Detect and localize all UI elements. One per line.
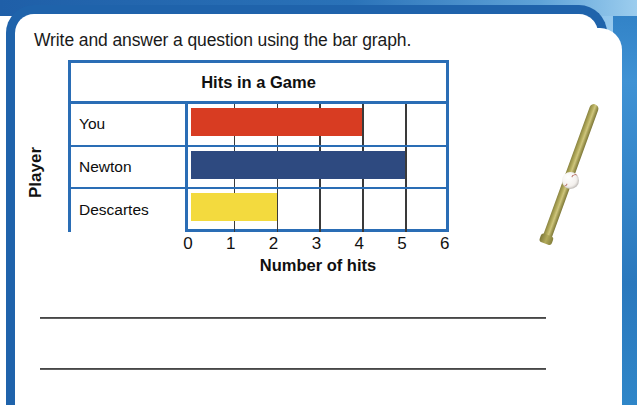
row-label-newton: Newton — [71, 147, 188, 188]
plot-area-newton — [191, 147, 446, 188]
x-tick-label: 1 — [216, 234, 246, 254]
graph-frame: Hits in a Game You Newton — [68, 60, 449, 232]
gridline — [405, 189, 407, 232]
gridline — [319, 189, 321, 232]
x-tick-label: 4 — [344, 234, 374, 254]
table-row: You — [71, 104, 446, 147]
y-axis-label: Player — [24, 115, 48, 230]
x-tick-label: 6 — [430, 234, 460, 254]
plot-area-you — [191, 104, 446, 145]
table-row: Newton — [71, 147, 446, 190]
baseball-icon — [562, 172, 579, 189]
bar-descartes — [191, 193, 277, 221]
graph-title-band: Hits in a Game — [71, 63, 446, 104]
answer-line-1[interactable] — [40, 317, 546, 319]
worksheet-page: Write and answer a question using the ba… — [0, 0, 637, 405]
x-tick-label: 3 — [301, 234, 331, 254]
bar-newton — [191, 151, 405, 179]
gridline — [362, 104, 364, 145]
baseball-seam — [569, 173, 579, 188]
x-tick-label: 0 — [173, 234, 203, 254]
plot-area-descartes — [191, 189, 446, 232]
row-label-you: You — [71, 104, 188, 145]
gridline — [277, 189, 279, 232]
x-axis-label: Number of hits — [188, 256, 448, 275]
gridline — [405, 104, 407, 145]
gridline — [362, 189, 364, 232]
x-tick-label: 5 — [387, 234, 417, 254]
graph-title: Hits in a Game — [201, 73, 316, 92]
bar-graph: Player Hits in a Game You — [0, 0, 637, 405]
row-label-descartes: Descartes — [71, 189, 188, 232]
answer-line-2[interactable] — [40, 368, 546, 370]
x-tick-label: 2 — [259, 234, 289, 254]
baseball-seam — [562, 173, 570, 188]
gridline — [405, 147, 407, 188]
bar-you — [191, 108, 362, 136]
table-row: Descartes — [71, 189, 446, 232]
graph-rows: You Newton — [71, 104, 446, 232]
